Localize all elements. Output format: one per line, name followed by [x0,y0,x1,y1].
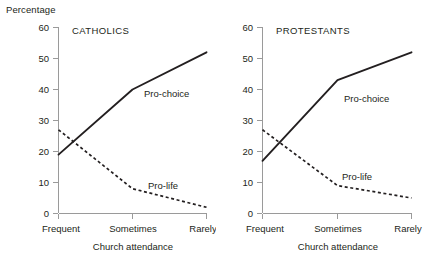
x-axis-caption-catholics: Church attendance [93,241,173,252]
y-tick-label-40: 40 [38,84,49,95]
chart-panel-protestants: PROTESTANTS 60 50 40 30 20 10 [216,0,432,264]
y-tick-label-50: 50 [38,53,49,64]
series-annotation-pro-life-catholics: Pro-life [148,180,178,191]
y-tick-label-30: 30 [242,115,253,126]
y-axis-protestants: 60 50 40 30 20 10 0 [242,22,262,219]
x-axis-protestants: Frequent Sometimes Rarely [246,214,422,235]
x-tick-label-frequent: Frequent [246,223,284,234]
x-axis-catholics: Frequent Sometimes Rarely [42,214,216,235]
x-tick-label-rarely: Rarely [189,223,216,234]
x-tick-label-sometimes: Sometimes [314,223,362,234]
series-line-pro-life-protestants [263,130,412,198]
y-tick-label-30: 30 [38,115,49,126]
y-tick-marks-catholics [53,28,58,214]
series-annotation-pro-choice-protestants: Pro-choice [344,93,389,104]
y-tick-label-50: 50 [242,53,253,64]
y-tick-label-20: 20 [38,146,49,157]
series-line-pro-choice-catholics [59,52,207,154]
series-line-pro-life-catholics [59,130,207,208]
x-tick-label-sometimes: Sometimes [109,223,157,234]
y-tick-label-40: 40 [242,84,253,95]
y-tick-marks-protestants [257,28,262,214]
series-annotation-pro-life-protestants: Pro-life [342,171,372,182]
plot-area-catholics: 60 50 40 30 20 10 0 Frequent Sometimes R… [0,0,216,264]
chart-panel-catholics: CATHOLICS 60 50 40 30 20 10 [0,0,216,264]
y-tick-label-10: 10 [38,177,49,188]
y-tick-label-0: 0 [248,208,253,219]
x-tick-label-frequent: Frequent [42,223,80,234]
y-tick-label-60: 60 [242,22,253,33]
y-tick-label-20: 20 [242,146,253,157]
series-annotation-pro-choice-catholics: Pro-choice [144,88,189,99]
plot-area-protestants: 60 50 40 30 20 10 0 Frequent Sometimes R… [216,0,432,264]
series-line-pro-choice-protestants [263,52,412,161]
x-axis-caption-protestants: Church attendance [298,241,378,252]
figure-root: Percentage CATHOLICS 60 50 40 30 [0,0,432,264]
x-tick-label-rarely: Rarely [394,223,422,234]
y-axis-catholics: 60 50 40 30 20 10 0 [38,22,58,219]
y-tick-label-0: 0 [44,208,49,219]
y-tick-label-10: 10 [242,177,253,188]
y-tick-label-60: 60 [38,22,49,33]
